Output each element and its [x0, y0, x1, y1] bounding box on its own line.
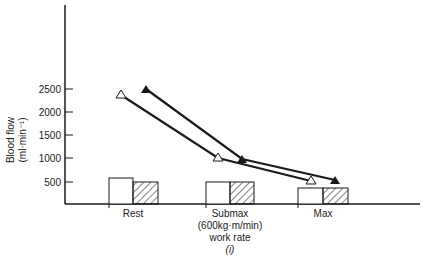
bar-max-hatched — [323, 188, 348, 204]
panel-label: (i) — [226, 244, 235, 255]
ytick-500: 500 — [44, 177, 61, 188]
ytick-2500: 2500 — [39, 84, 62, 95]
bar-max-open — [298, 188, 323, 204]
category-label-max: Max — [314, 208, 333, 219]
x-axis-title: work rate — [208, 232, 251, 243]
bars-submax — [206, 182, 254, 204]
y-axis-title: Blood flow (ml·min⁻¹) — [5, 116, 28, 163]
ytick-1000: 1000 — [39, 153, 62, 164]
y-ticks — [65, 89, 73, 182]
bar-rest-hatched — [133, 182, 158, 204]
category-label-rest: Rest — [123, 208, 144, 219]
filled-triangle-marker-rest — [141, 85, 151, 93]
open-triangle-marker-rest — [116, 90, 126, 98]
category-label-submax: Submax — [212, 208, 249, 219]
bar-submax-open — [206, 182, 230, 204]
ytick-2000: 2000 — [39, 107, 62, 118]
bar-rest-open — [109, 178, 133, 204]
y-axis-title-line2: (ml·min⁻¹) — [17, 118, 28, 163]
bars-rest — [109, 178, 158, 204]
bars-max — [298, 188, 348, 204]
bar-submax-hatched — [230, 182, 254, 204]
y-axis-title-line1: Blood flow — [5, 116, 16, 163]
ytick-1500: 1500 — [39, 130, 62, 141]
blood-flow-chart: 2500 2000 1500 1000 500 Blood flow (ml·m… — [0, 0, 426, 260]
y-tick-labels: 2500 2000 1500 1000 500 — [39, 84, 62, 188]
line-filled-triangles — [141, 85, 340, 184]
category-sublabel-submax: (600kg·m/min) — [198, 220, 262, 231]
